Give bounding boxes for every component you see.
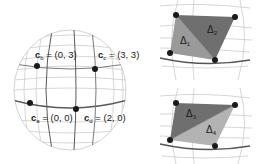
vertex-c xyxy=(92,66,98,72)
label-point-a: ca = (0, 0) xyxy=(31,113,73,126)
label-triangle-3: Δ3 xyxy=(186,109,196,122)
label-point-b: cb = (0, 3) xyxy=(35,50,77,63)
diagram-canvas: cb = (0, 3) cc = (3, 3) ca = (0, 0) cd =… xyxy=(0,0,256,164)
label-point-d: cd = (2, 0) xyxy=(84,113,126,126)
label-triangle-4: Δ4 xyxy=(206,125,216,138)
panel-top xyxy=(160,0,252,80)
sphere xyxy=(12,30,128,150)
diagram-svg xyxy=(0,0,256,164)
vertex-d xyxy=(73,106,79,112)
label-triangle-2: Δ2 xyxy=(207,25,217,38)
vertex-b xyxy=(34,63,40,69)
vertex-a xyxy=(27,100,33,106)
label-point-c: cc = (3, 3) xyxy=(98,50,139,63)
label-triangle-1: Δ1 xyxy=(180,36,190,49)
